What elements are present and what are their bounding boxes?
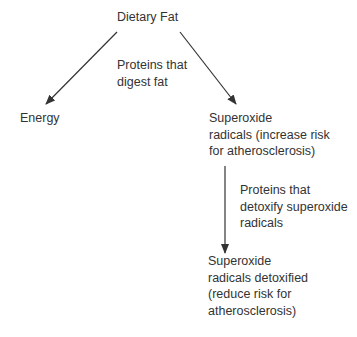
node-line: (reduce risk for [208, 286, 308, 303]
node-superoxide-detoxified: Superoxide radicals detoxified (reduce r… [208, 253, 308, 319]
node-line: atherosclerosis) [208, 303, 308, 320]
node-line: radicals (increase risk [209, 127, 330, 144]
edge-label-line: Proteins that [117, 57, 187, 74]
edge-label-line: Proteins that [240, 182, 348, 199]
node-line: radicals detoxified [208, 270, 308, 287]
node-line: for atherosclerosis) [209, 143, 330, 160]
arrow-fat-to-energy [46, 32, 117, 104]
node-line: Superoxide [209, 110, 330, 127]
node-energy: Energy [20, 110, 60, 127]
edge-label-detoxify: Proteins that detoxify superoxide radica… [240, 182, 348, 232]
edge-label-line: detoxify superoxide [240, 199, 348, 216]
edge-label-line: radicals [240, 215, 348, 232]
node-superoxide-radicals: Superoxide radicals (increase risk for a… [209, 110, 330, 160]
node-line: Superoxide [208, 253, 308, 270]
edge-label-digest-fat: Proteins that digest fat [117, 57, 187, 90]
node-dietary-fat: Dietary Fat [117, 9, 178, 26]
edge-label-line: digest fat [117, 74, 187, 91]
arrow-fat-to-superoxide [180, 32, 236, 104]
